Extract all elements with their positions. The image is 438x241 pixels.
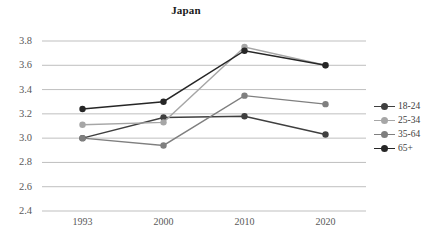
chart-legend: 18-2425-3435-6465+	[374, 99, 438, 155]
series-line-18-24	[83, 116, 326, 138]
data-point-35-64-2010	[241, 92, 247, 98]
x-axis-tick-label: 1993	[58, 217, 108, 227]
y-axis-tick-label: 2.8	[4, 157, 32, 167]
legend-item-label: 18-24	[395, 101, 420, 111]
plot-area	[0, 0, 438, 241]
legend-item-label: 35-64	[395, 129, 420, 139]
legend-item-65+[interactable]: 65+	[374, 141, 438, 155]
legend-item-label: 65+	[395, 143, 413, 153]
y-axis-tick-label: 3.0	[4, 133, 32, 143]
data-point-65+-2010	[241, 48, 247, 54]
legend-item-label: 25-34	[395, 115, 420, 125]
data-point-65+-2020	[322, 62, 328, 68]
x-axis-tick-label: 2000	[139, 217, 189, 227]
y-axis-tick-label: 3.8	[4, 36, 32, 46]
legend-item-18-24[interactable]: 18-24	[374, 99, 438, 113]
legend-marker-icon	[374, 114, 395, 126]
y-axis-tick-label: 2.6	[4, 182, 32, 192]
legend-item-35-64[interactable]: 35-64	[374, 127, 438, 141]
line-chart: Japan 3.83.63.43.23.02.82.62.4 199320002…	[0, 0, 438, 241]
data-point-35-64-2000	[160, 142, 166, 148]
data-point-35-64-1993	[79, 135, 85, 141]
x-axis-tick-label: 2020	[301, 217, 351, 227]
legend-marker-icon	[374, 100, 395, 112]
data-point-35-64-2020	[322, 101, 328, 107]
y-axis-tick-label: 2.4	[4, 206, 32, 216]
y-axis-tick-label: 3.4	[4, 85, 32, 95]
x-axis-tick-label: 2010	[220, 217, 270, 227]
data-point-18-24-2010	[241, 113, 247, 119]
data-point-65+-1993	[79, 106, 85, 112]
y-axis-tick-label: 3.6	[4, 60, 32, 70]
data-point-25-34-2000	[160, 119, 166, 125]
legend-item-25-34[interactable]: 25-34	[374, 113, 438, 127]
data-point-18-24-2020	[322, 131, 328, 137]
data-point-25-34-1993	[79, 122, 85, 128]
data-point-65+-2000	[160, 99, 166, 105]
y-axis-tick-label: 3.2	[4, 109, 32, 119]
legend-marker-icon	[374, 128, 395, 140]
legend-marker-icon	[374, 142, 395, 154]
